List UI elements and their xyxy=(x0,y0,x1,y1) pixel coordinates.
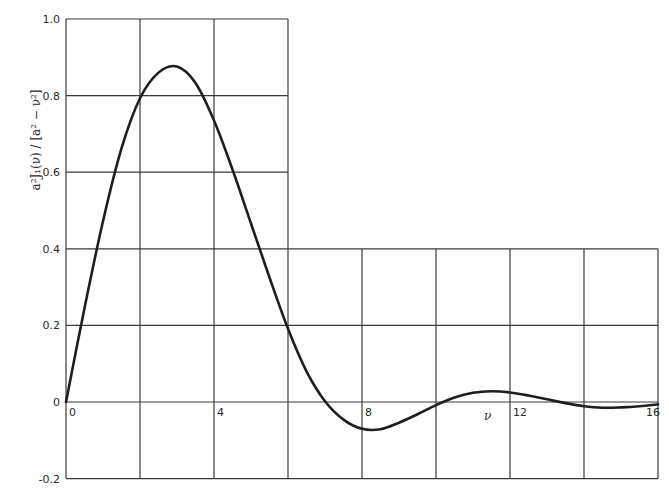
svg-text:0.8: 0.8 xyxy=(43,90,61,103)
svg-text:12: 12 xyxy=(513,406,527,419)
x-axis-label: ν xyxy=(484,409,491,423)
chart: 1.00.80.60.40.20-0.2 0481216 a²J₁(ν) / [… xyxy=(0,0,669,496)
svg-text:-0.2: -0.2 xyxy=(39,473,60,486)
svg-text:0.6: 0.6 xyxy=(43,166,61,179)
y-axis-label: a²J₁(ν) / [a² − ν²] xyxy=(29,89,43,190)
y-axis-ticks: 1.00.80.60.40.20-0.2 xyxy=(39,13,60,486)
svg-text:0.4: 0.4 xyxy=(43,243,61,256)
svg-text:0: 0 xyxy=(53,396,60,409)
x-axis-ticks: 0481216 xyxy=(69,406,660,419)
svg-text:16: 16 xyxy=(646,406,660,419)
svg-text:4: 4 xyxy=(217,406,224,419)
grid-lines xyxy=(66,19,658,479)
svg-text:1.0: 1.0 xyxy=(43,13,61,26)
svg-text:0.2: 0.2 xyxy=(43,319,61,332)
svg-text:8: 8 xyxy=(365,406,372,419)
svg-text:0: 0 xyxy=(69,406,76,419)
